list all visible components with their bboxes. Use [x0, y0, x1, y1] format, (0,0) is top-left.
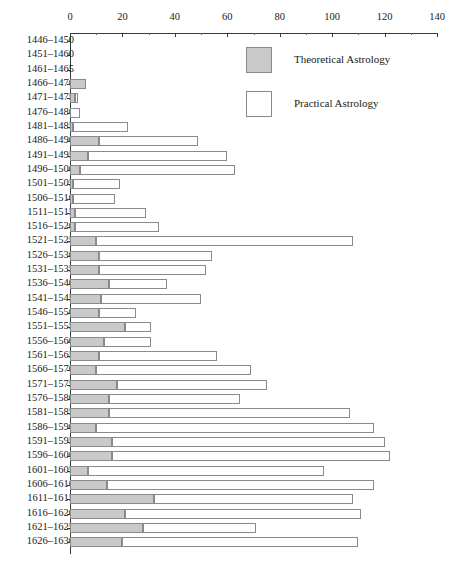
chart-row: 1621–1625: [0, 521, 458, 535]
bar-segment-practical: [107, 480, 374, 490]
bar-segment-practical: [73, 194, 115, 204]
chart-row: 1516–1520: [0, 220, 458, 234]
stacked-bar: [70, 437, 385, 447]
stacked-bar: [70, 294, 201, 304]
bar-segment-theoretical: [70, 480, 107, 490]
chart-row: 1601–1605: [0, 464, 458, 478]
bar-segment-theoretical: [70, 509, 125, 519]
bar-segment-practical: [109, 394, 240, 404]
bar-segment-theoretical: [70, 308, 99, 318]
bar-segment-theoretical: [70, 151, 88, 161]
chart-row: 1616–1620: [0, 507, 458, 521]
bar-segment-theoretical: [70, 322, 125, 332]
chart-legend: Theoretical AstrologyPractical Astrology: [246, 47, 446, 117]
x-axis-tick-label: 120: [377, 12, 393, 23]
chart-row: 1551–1555: [0, 320, 458, 334]
bar-segment-theoretical: [70, 380, 117, 390]
bar-segment-practical: [73, 122, 128, 132]
x-axis-tick-label: 140: [429, 12, 445, 23]
stacked-bar: [70, 136, 198, 146]
bar-segment-theoretical: [70, 494, 154, 504]
bar-segment-practical: [96, 423, 374, 433]
bar-segment-theoretical: [70, 394, 109, 404]
legend-label: Practical Astrology: [294, 98, 379, 109]
bar-segment-theoretical: [70, 351, 99, 361]
stacked-bar: [70, 93, 78, 103]
bar-segment-practical: [112, 451, 390, 461]
bar-segment-practical: [99, 136, 199, 146]
stacked-bar: [70, 194, 115, 204]
stacked-bar: [70, 423, 374, 433]
bar-segment-theoretical: [70, 408, 109, 418]
bar-segment-practical: [88, 466, 324, 476]
stacked-bar: [70, 480, 374, 490]
bar-segment-practical: [143, 523, 256, 533]
x-axis-tick-label: 40: [170, 12, 181, 23]
stacked-bar: [70, 308, 136, 318]
bar-segment-theoretical: [70, 265, 99, 275]
chart-row: 1611–1615: [0, 492, 458, 506]
bar-segment-theoretical: [70, 523, 143, 533]
bar-segment-practical: [96, 365, 251, 375]
stacked-bar: [70, 251, 212, 261]
y-axis-tick: [67, 41, 70, 42]
bar-segment-practical: [99, 351, 217, 361]
bar-segment-theoretical: [70, 337, 104, 347]
bar-segment-practical: [75, 93, 78, 103]
bar-segment-practical: [109, 279, 167, 289]
stacked-bar: [70, 494, 353, 504]
chart-row: 1506–1510: [0, 192, 458, 206]
legend-swatch-practical: [246, 91, 272, 117]
bar-segment-theoretical: [70, 466, 88, 476]
bar-segment-theoretical: [70, 365, 96, 375]
stacked-bar: [70, 337, 151, 347]
stacked-bar: [70, 236, 353, 246]
bar-segment-practical: [104, 337, 151, 347]
stacked-bar: [70, 165, 235, 175]
bar-segment-practical: [154, 494, 353, 504]
chart-row: 1481–1485: [0, 120, 458, 134]
x-axis-tick-label: 80: [274, 12, 285, 23]
bar-segment-practical: [112, 437, 385, 447]
bar-segment-theoretical: [70, 251, 99, 261]
bar-segment-theoretical: [70, 423, 96, 433]
bar-segment-practical: [101, 294, 201, 304]
chart-row: 1526–1530: [0, 249, 458, 263]
stacked-bar: [70, 122, 128, 132]
stacked-bar: [70, 509, 361, 519]
bar-segment-practical: [73, 179, 120, 189]
chart-row: 1561–1565: [0, 349, 458, 363]
bar-segment-theoretical: [70, 537, 122, 547]
chart-row: 1491–1495: [0, 149, 458, 163]
stacked-bar: [70, 394, 240, 404]
x-axis: 020406080100120140: [0, 0, 458, 34]
chart-row: 1626–1630: [0, 535, 458, 549]
bar-segment-practical: [96, 236, 353, 246]
bar-segment-practical: [80, 165, 235, 175]
stacked-bar: [70, 208, 146, 218]
bar-chart: 020406080100120140 1446–14501451–1460146…: [0, 0, 458, 566]
chart-row: 1586–1590: [0, 421, 458, 435]
stacked-bar: [70, 523, 256, 533]
chart-row: 1536–1540: [0, 277, 458, 291]
bar-segment-practical: [109, 408, 350, 418]
chart-row: 1501–1505: [0, 177, 458, 191]
bar-segment-theoretical: [70, 236, 96, 246]
bar-segment-practical: [122, 537, 358, 547]
bar-segment-theoretical: [70, 451, 112, 461]
chart-row: 1606–1610: [0, 478, 458, 492]
bar-segment-practical: [75, 208, 146, 218]
x-axis-tick-label: 20: [117, 12, 128, 23]
legend-item-practical: Practical Astrology: [246, 91, 446, 117]
bar-segment-practical: [117, 380, 266, 390]
x-axis-tick-label: 0: [67, 12, 72, 23]
chart-row: 1556–1560: [0, 335, 458, 349]
bar-segment-theoretical: [70, 437, 112, 447]
stacked-bar: [70, 451, 390, 461]
bar-segment-practical: [125, 509, 361, 519]
bar-segment-practical: [75, 222, 159, 232]
legend-swatch-theoretical: [246, 47, 272, 73]
bar-segment-practical: [88, 151, 227, 161]
bar-segment-theoretical: [70, 165, 80, 175]
stacked-bar: [70, 380, 267, 390]
